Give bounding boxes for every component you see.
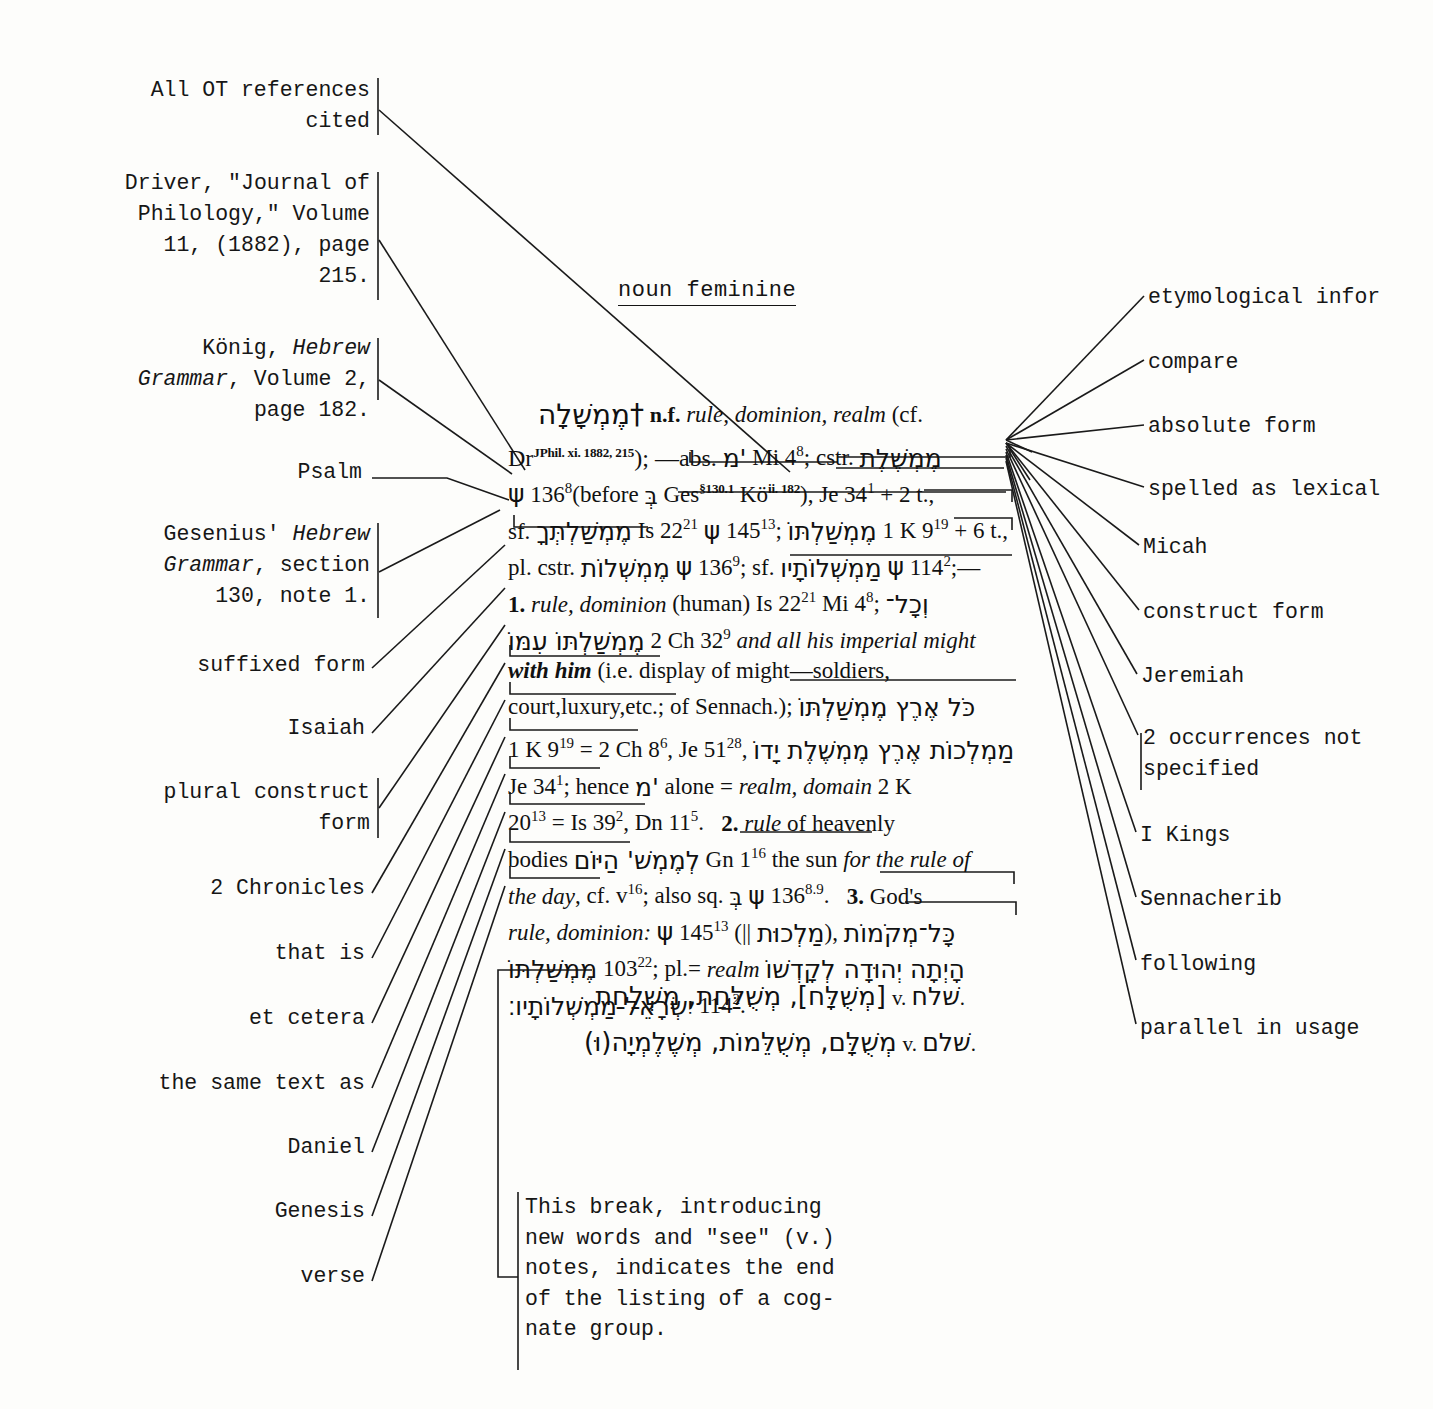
annotation-jeremiah: Jeremiah [1141,661,1244,692]
leader-et-cetera [372,737,505,1023]
leader-konig [379,380,512,474]
annotation-psalm: Psalm [40,457,362,488]
leader-sennacherib [1006,455,1136,897]
leader-i-kings [1006,452,1136,832]
annotation-that-is: that is [40,938,365,969]
leader-jeremiah [1006,446,1137,674]
annotation-micah: Micah [1143,532,1208,563]
article-line-9: court,luxury,etc.; of Sennach.); כֹּל אֶ… [508,689,1016,726]
leader-psalm [372,478,509,500]
annotation-gesenius-hebrew-grammar: Gesenius' Hebrew Grammar, section 130, n… [40,519,370,612]
article-line-4: sf. מֶמְשַׁלְתְּךָ Is 2221 ψ 14513; מֶמְ… [508,507,1016,544]
see-note-row-2: מְשֻׁלָּם, מְשֻׁלֵּמוֹת, מְשֶׁלֶמְיָה(וּ… [545,1020,1015,1066]
annotation-2-chronicles: 2 Chronicles [40,873,365,904]
leader-2-chronicles [372,663,505,893]
annotation-daniel: Daniel [40,1132,365,1163]
article-line-3: ψ 1368(before בְּ Ges§130.1 Köii. 182), … [508,470,1016,507]
annotation-plural-construct-form: plural construct form [40,777,370,839]
article-line-7: מֶמְשַׁלְתּוֹ עִמּוֹ 2 Ch 329 and all hi… [508,616,1016,653]
leader-2-occurrences [1006,449,1138,735]
annotation-et-cetera: et cetera [40,1003,365,1034]
annotation-2-occurrences-not-specified: 2 occurrences not specified [1143,723,1362,785]
leader-driver [379,240,525,470]
annotation-etymological-information: etymological infor [1148,282,1380,313]
annotation-spelled-as-lexical: spelled as lexical [1148,474,1380,505]
article-line-8: with him (i.e. display of might—soldiers… [508,653,1016,690]
article-line-headword: †מֶמְשָׁלָה n.f. rule, dominion, realm (… [538,397,1016,434]
leader-parallel-in-usage [1006,461,1136,1024]
leader-construct-form [1006,443,1139,610]
annotation-all-ot-references-cited: All OT references cited [40,75,370,137]
annotation-verse: verse [40,1261,365,1292]
annotation-driver-journal-of-philology: Driver, "Journal of Philology," Volume 1… [40,168,370,292]
leader-gesenius [379,510,500,572]
part-of-speech-label: noun feminine [618,278,796,306]
annotation-compare: compare [1148,347,1238,378]
annotation-cognate-break-note: This break, introducing new words and "s… [525,1192,835,1345]
leader-absolute-form [1006,425,1144,440]
annotation-i-kings: I Kings [1140,820,1230,851]
leader-genesis [372,849,505,1216]
leader-suffixed-form [372,545,505,668]
annotation-construct-form: construct form [1143,597,1324,628]
leader-that-is [372,700,505,958]
article-line-13: bodies לְמֶמְשׁ' הַיּוֹם Gn 116 the sun … [508,835,1016,872]
leader-etymological-information [1006,296,1144,440]
lexicon-entry-article: †מֶמְשָׁלָה n.f. rule, dominion, realm (… [508,397,1016,1018]
annotation-parallel-in-usage: parallel in usage [1140,1013,1372,1044]
annotation-suffixed-form: suffixed form [40,650,365,681]
leader-spelled-as-lexical [1006,443,1144,487]
article-line-sense-2: 2013 = Is 392, Dn 115. 2. rule of heaven… [508,799,1016,836]
article-line-sense-3: the day, cf. v16; also sq. בְּ ψ 1368.9.… [508,872,1016,909]
leader-following [1006,458,1136,960]
leader-compare [1006,360,1144,440]
annotation-isaiah: Isaiah [40,713,365,744]
leader-the-same-text-as [372,774,505,1088]
annotation-the-same-text-as: the same text as [40,1068,365,1099]
leader-plural-construct [379,625,505,808]
annotation-following: following [1140,949,1256,980]
leader-isaiah [372,588,505,733]
article-line-sense-1: 1. rule, dominion (human) Is 2221 Mi 48;… [508,580,1016,617]
article-line-5: pl. cstr. מֶמְשְׁלוֹת ψ 1369; sf. מַמְשְ… [508,543,1016,580]
annotation-sennacherib: Sennacherib [1140,884,1282,915]
article-line-2: DrJPhil. xi. 1882, 215); —abs. 'מ Mi 48;… [508,434,1016,471]
cognate-see-notes: [מְשֻׁלָּח], מְשֻׁלַּחַת, מִשְׁלַחַת v. … [545,974,1015,1066]
annotation-konig-hebrew-grammar: König, Hebrew Grammar, Volume 2, page 18… [40,333,370,426]
article-line-10: 1 K 919 = 2 Ch 86, Je 5128, מַמְלְכוֹת א… [508,726,1016,763]
article-line-11: Je 341; hence 'מ alone = realm, domain 2… [508,762,1016,799]
annotation-genesis: Genesis [40,1196,365,1227]
leader-micah [1006,443,1139,545]
leader-verse [372,886,505,1281]
leader-daniel [372,812,505,1152]
annotated-lexicon-page: noun feminine All OT references cited Dr… [0,0,1433,1409]
article-line-15: rule, dominion: ψ 14513 (|| מַלְכוּת), כ… [508,908,1016,945]
annotation-absolute-form: absolute form [1148,411,1316,442]
see-note-row-1: [מְשֻׁלָּח], מְשֻׁלַּחַת, מִשְׁלַחַת v. … [545,974,1015,1020]
